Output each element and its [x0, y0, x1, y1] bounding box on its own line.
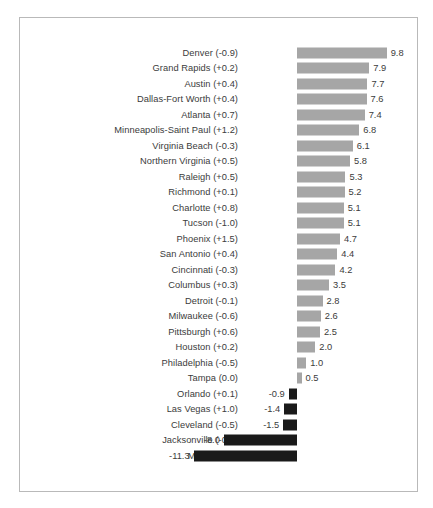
caption-artifact: [20, 497, 413, 505]
category-label: San Antonio (+0.4): [160, 249, 238, 259]
bar-negative: [194, 450, 297, 461]
bar-value-label: -8.0: [204, 435, 220, 445]
bar-value-label: -1.4: [264, 404, 280, 414]
bar-row: Detroit (-0.1)2.8: [20, 293, 417, 309]
bar-positive: [297, 373, 302, 384]
bar-negative: [289, 388, 297, 399]
bar-value-label: 5.2: [349, 187, 362, 197]
bar-row: Philadelphia (-0.5)1.0: [20, 355, 417, 371]
category-label: Minneapolis-Saint Paul (+1.2): [114, 125, 238, 135]
bar-value-label: 7.9: [373, 63, 386, 73]
category-label: Tampa (0.0): [188, 373, 238, 383]
bar-row: Cincinnati (-0.3)4.2: [20, 262, 417, 278]
bar-positive: [297, 109, 365, 120]
bar-value-label: 6.1: [357, 141, 370, 151]
bar-value-label: 4.4: [341, 249, 354, 259]
bar-positive: [297, 63, 369, 74]
category-label: Milwaukee (-0.6): [168, 311, 238, 321]
bar-row: Dallas-Fort Worth (+0.4)7.6: [20, 92, 417, 108]
bar-row: Richmond (+0.1)5.2: [20, 185, 417, 201]
bar-value-label: 1.0: [310, 358, 323, 368]
bar-value-label: 2.5: [324, 327, 337, 337]
bar-value-label: -1.5: [263, 420, 279, 430]
bar-value-label: 7.6: [371, 94, 384, 104]
category-label: Pittsburgh (+0.6): [168, 327, 238, 337]
bar-positive: [297, 78, 367, 89]
bar-row: San Antonio (+0.4)4.4: [20, 247, 417, 263]
chart-frame: Denver (-0.9)9.8Grand Rapids (+0.2)7.9Au…: [19, 17, 418, 492]
category-label: Raleigh (+0.5): [179, 172, 238, 182]
category-label: Atlanta (+0.7): [181, 110, 238, 120]
category-label: Cleveland (-0.5): [171, 420, 238, 430]
category-label: Austin (+0.4): [184, 79, 238, 89]
bar-negative: [284, 404, 297, 415]
bar-row: Cleveland (-0.5)-1.5: [20, 417, 417, 433]
category-label: Cincinnati (-0.3): [172, 265, 238, 275]
bar-row: Jacksonville (-0.1)-8.0: [20, 433, 417, 449]
bar-value-label: 2.8: [327, 296, 340, 306]
bar-row: Grand Rapids (+0.2)7.9: [20, 61, 417, 77]
bar-row: Columbus (+0.3)3.5: [20, 278, 417, 294]
category-label: Houston (+0.2): [176, 342, 238, 352]
bar-row: Atlanta (+0.7)7.4: [20, 107, 417, 123]
bar-value-label: 4.2: [339, 265, 352, 275]
bar-chart-plot-area: Denver (-0.9)9.8Grand Rapids (+0.2)7.9Au…: [20, 18, 417, 491]
bar-row: Orlando (+0.1)-0.9: [20, 386, 417, 402]
bar-value-label: 2.6: [325, 311, 338, 321]
bar-positive: [297, 187, 345, 198]
category-label: Virginia Beach (-0.3): [152, 141, 238, 151]
bar-row: Minneapolis-Saint Paul (+1.2)6.8: [20, 123, 417, 139]
bar-row: Charlotte (+0.8)5.1: [20, 200, 417, 216]
bar-row: Raleigh (+0.5)5.3: [20, 169, 417, 185]
bar-positive: [297, 342, 315, 353]
bar-positive: [297, 264, 335, 275]
category-label: Orlando (+0.1): [177, 389, 238, 399]
bar-positive: [297, 140, 353, 151]
bar-value-label: 6.8: [363, 125, 376, 135]
category-label: Dallas-Fort Worth (+0.4): [137, 94, 238, 104]
bar-value-label: 5.8: [354, 156, 367, 166]
category-label: Detroit (-0.1): [185, 296, 238, 306]
bar-value-label: 5.1: [348, 203, 361, 213]
bar-value-label: 5.3: [349, 172, 362, 182]
bar-row: Las Vegas (+1.0)-1.4: [20, 402, 417, 418]
bar-positive: [297, 202, 344, 213]
bar-row: Phoenix (+1.5)4.7: [20, 231, 417, 247]
bar-positive: [297, 125, 359, 136]
category-label: Richmond (+0.1): [168, 187, 238, 197]
bar-row: Miami (-0.3)-11.3: [20, 448, 417, 464]
category-label: Denver (-0.9): [183, 48, 238, 58]
category-label: Charlotte (+0.8): [172, 203, 238, 213]
category-label: Northern Virginia (+0.5): [140, 156, 238, 166]
bar-value-label: 4.7: [344, 234, 357, 244]
bar-positive: [297, 249, 337, 260]
bar-positive: [297, 357, 306, 368]
bar-negative: [283, 419, 297, 430]
bar-row: Houston (+0.2)2.0: [20, 340, 417, 356]
bar-value-label: 9.8: [391, 48, 404, 58]
bar-row: Tucson (-1.0)5.1: [20, 216, 417, 232]
bar-positive: [297, 47, 387, 58]
bar-value-label: -0.9: [269, 389, 285, 399]
bar-row: Tampa (0.0)0.5: [20, 371, 417, 387]
bar-positive: [297, 280, 329, 291]
bar-row: Northern Virginia (+0.5)5.8: [20, 154, 417, 170]
bar-positive: [297, 94, 367, 105]
bar-positive: [297, 295, 323, 306]
bar-value-label: 7.4: [369, 110, 382, 120]
bar-negative: [224, 435, 297, 446]
bar-positive: [297, 218, 344, 229]
category-label: Grand Rapids (+0.2): [153, 63, 238, 73]
bar-positive: [297, 156, 350, 167]
bar-row: Virginia Beach (-0.3)6.1: [20, 138, 417, 154]
bar-row: Milwaukee (-0.6)2.6: [20, 309, 417, 325]
bar-value-label: 3.5: [333, 280, 346, 290]
bar-row: Denver (-0.9)9.8: [20, 45, 417, 61]
bar-value-label: 2.0: [319, 342, 332, 352]
category-label: Philadelphia (-0.5): [162, 358, 238, 368]
bar-value-label: -11.3: [169, 451, 190, 461]
bar-row: Pittsburgh (+0.6)2.5: [20, 324, 417, 340]
bar-row: Austin (+0.4)7.7: [20, 76, 417, 92]
bar-value-label: 5.1: [348, 218, 361, 228]
category-label: Tucson (-1.0): [182, 218, 238, 228]
